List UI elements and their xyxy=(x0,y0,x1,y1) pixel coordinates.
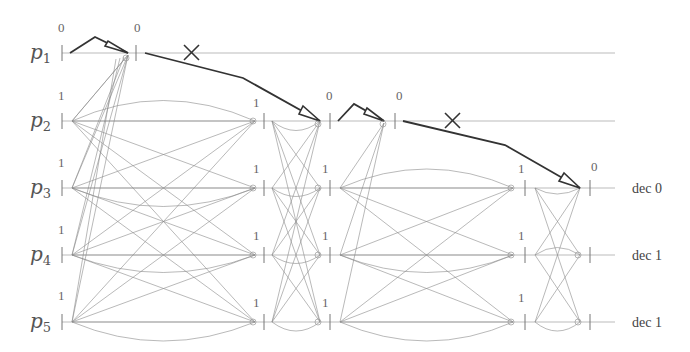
decision-label-p4: dec 1 xyxy=(632,248,662,263)
receive-nodes xyxy=(123,55,581,325)
phase2-messages xyxy=(272,121,320,331)
decision-label-p5: dec 1 xyxy=(632,315,662,330)
round-label: 0 xyxy=(591,159,598,174)
arrowhead-icon xyxy=(364,108,384,121)
round-label: 0 xyxy=(326,88,333,103)
round-label: 1 xyxy=(253,228,260,243)
phase4-messages xyxy=(535,188,580,331)
round-label: 1 xyxy=(253,95,260,110)
round-label: 1 xyxy=(253,295,260,310)
arrowhead-icon xyxy=(105,41,128,53)
round-label: 1 xyxy=(58,155,65,170)
round-label: 0 xyxy=(396,88,403,103)
process-label-p4: p4 xyxy=(30,242,51,268)
round-label: 1 xyxy=(322,161,329,176)
arrowhead-icon xyxy=(299,106,320,121)
round-value-labels: 0 0 1 1 0 0 1 1 1 1 0 1 1 1 1 1 1 1 1 xyxy=(58,20,598,310)
round-label: 1 xyxy=(518,228,525,243)
round-label: 0 xyxy=(58,20,65,35)
round-label: 1 xyxy=(253,161,260,176)
protocol-diagram: p1 p2 p3 p4 p5 0 0 1 1 0 0 1 xyxy=(0,0,690,352)
decision-label-p3: dec 0 xyxy=(632,181,662,196)
round-label: 1 xyxy=(322,228,329,243)
process-labels: p1 p2 p3 p4 p5 xyxy=(30,40,51,335)
process-label-p3: p3 xyxy=(30,175,51,201)
round-label: 1 xyxy=(58,88,65,103)
phase3-messages xyxy=(340,123,513,341)
p2-to-p3-message xyxy=(403,121,580,188)
process-label-p2: p2 xyxy=(30,108,51,134)
process-label-p5: p5 xyxy=(30,309,51,335)
p1-to-p2-message xyxy=(145,53,320,121)
phase1-messages xyxy=(72,55,255,341)
round-label: 1 xyxy=(58,288,65,303)
round-label: 1 xyxy=(322,295,329,310)
arrowhead-icon xyxy=(559,173,580,188)
round-label: 1 xyxy=(58,222,65,237)
round-label: 1 xyxy=(518,161,525,176)
decision-labels: dec 0 dec 1 dec 1 xyxy=(632,181,662,330)
round-label: 0 xyxy=(134,20,141,35)
process-label-p1: p1 xyxy=(30,40,51,66)
round-label: 1 xyxy=(518,290,525,305)
